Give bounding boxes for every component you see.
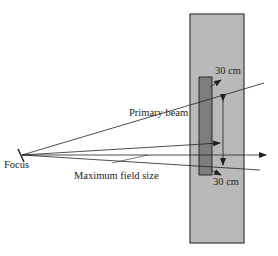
phantom-block [190,14,244,243]
top-distance-label: 30 cm [215,66,241,77]
beam-geometry-diagram [0,0,278,256]
primary-beam-label: Primary beam [129,108,188,119]
bottom-distance-label: 30 cm [213,177,239,188]
max-field-size-label: Maximum field size [74,171,159,182]
focus-label: Focus [4,160,29,171]
detector-bar [199,77,212,175]
